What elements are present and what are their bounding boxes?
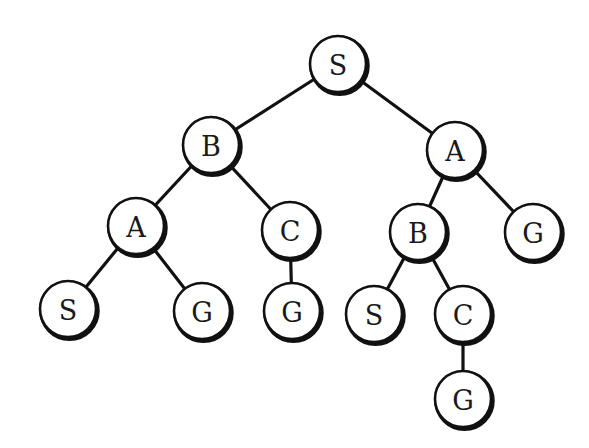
tree-node: S	[346, 286, 404, 344]
tree-node: C	[435, 286, 493, 344]
node-label: A	[125, 212, 146, 243]
tree-node: B	[390, 204, 448, 262]
node-label: S	[329, 50, 348, 81]
tree-node: C	[262, 202, 320, 260]
node-label: C	[280, 216, 301, 247]
tree-node: G	[264, 283, 322, 341]
node-label: G	[191, 297, 213, 328]
node-label: S	[365, 300, 384, 331]
search-tree-diagram: S B A A C B G S G G S C G	[0, 0, 589, 448]
node-label: A	[444, 136, 465, 167]
tree-node: G	[174, 283, 232, 341]
tree-node: G	[435, 371, 493, 429]
tree-node: G	[505, 204, 563, 262]
tree-node: S	[40, 281, 98, 339]
tree-node: S	[310, 36, 368, 94]
tree-node: A	[108, 198, 166, 256]
tree-node: A	[427, 122, 485, 180]
node-label: S	[59, 295, 78, 326]
node-label: B	[408, 218, 428, 249]
tree-node: B	[183, 117, 241, 175]
node-label: B	[201, 131, 221, 162]
node-label: G	[452, 385, 474, 416]
node-label: G	[281, 297, 303, 328]
node-label: G	[522, 218, 544, 249]
tree-nodes: S B A A C B G S G G S C G	[40, 36, 563, 429]
node-label: C	[453, 300, 474, 331]
